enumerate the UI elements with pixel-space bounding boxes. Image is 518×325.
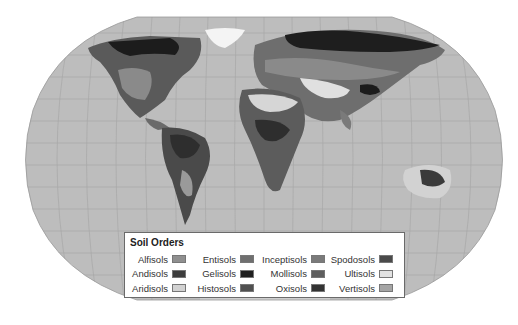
legend-item-entisols: Entisols [190,252,258,267]
legend-item-gelisols: Gelisols [190,267,258,282]
legend-item-mollisols: Mollisols [258,267,329,282]
swatch-aridisols [172,284,186,292]
legend-item-aridisols: Aridisols [129,281,190,296]
legend-item-histosols: Histosols [190,281,258,296]
legend-item-andisols: Andisols [129,267,190,282]
swatch-spodosols [379,255,393,263]
swatch-ultisols [379,270,393,278]
legend-item-oxisols: Oxisols [258,281,329,296]
swatch-andisols [172,270,186,278]
legend-item-ultisols: Ultisols [329,267,397,282]
swatch-histosols [240,284,254,292]
legend-item-spodosols: Spodosols [329,252,397,267]
swatch-oxisols [311,284,325,292]
legend-items: Alfisols Entisols Inceptisols Spodosols … [129,252,401,296]
swatch-entisols [240,255,254,263]
legend-item-vertisols: Vertisols [329,281,397,296]
swatch-inceptisols [311,255,325,263]
soil-orders-legend: Soil Orders Alfisols Entisols Inceptisol… [124,232,405,298]
swatch-vertisols [379,284,393,292]
swatch-alfisols [172,255,186,263]
swatch-mollisols [311,270,325,278]
legend-item-inceptisols: Inceptisols [258,252,329,267]
legend-item-alfisols: Alfisols [129,252,190,267]
legend-title: Soil Orders [130,237,184,248]
swatch-gelisols [240,270,254,278]
